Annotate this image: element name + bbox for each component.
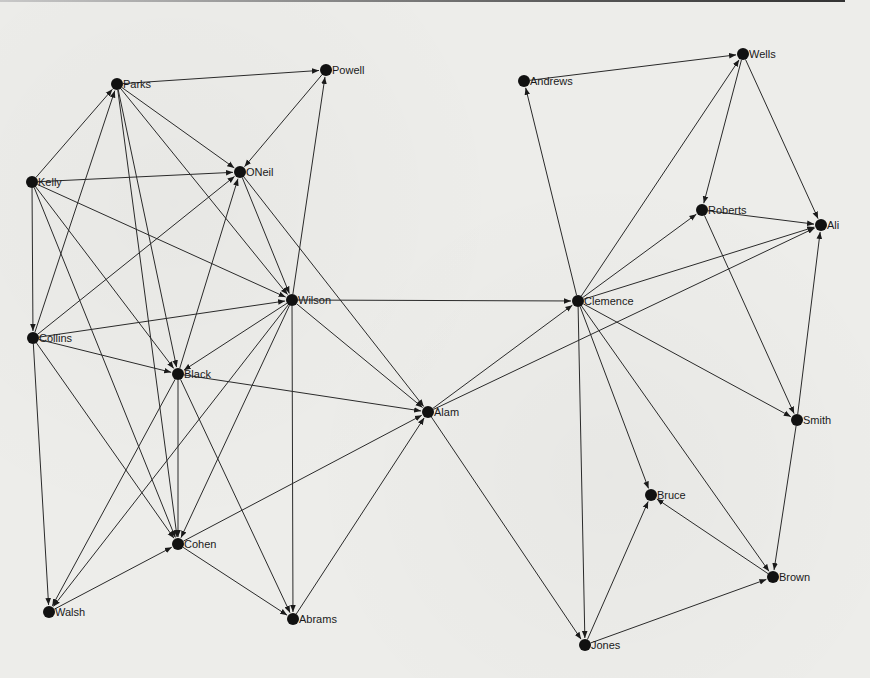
node-bruce: Bruce (645, 489, 686, 501)
edge-parks-to-powell (123, 70, 319, 83)
node-label: Collins (39, 332, 73, 344)
node-collins: Collins (27, 332, 73, 344)
node-label: Alam (434, 406, 459, 418)
node-andrews: Andrews (518, 75, 573, 87)
edge-walsh-to-cohen (54, 547, 171, 609)
node-label: Ali (827, 219, 839, 231)
nodes-layer: ParksPowellONeilKellyWilsonCollinsBlackA… (26, 48, 839, 651)
node-dot-icon (815, 219, 827, 231)
edge-parks-to-cohen (118, 90, 177, 537)
edge-clemence-to-roberts (583, 214, 697, 297)
node-jones: Jones (579, 639, 621, 651)
node-dot-icon (43, 606, 55, 618)
node-brown: Brown (767, 571, 810, 583)
edge-black-to-oneil (180, 179, 238, 369)
node-label: Powell (332, 64, 364, 76)
edge-clemence-to-jones (578, 307, 585, 638)
node-roberts: Roberts (696, 204, 747, 216)
edge-collins-to-walsh (33, 344, 48, 605)
edge-parks-to-oneil (122, 87, 234, 167)
node-label: Cohen (184, 538, 216, 550)
node-label: Andrews (530, 75, 573, 87)
node-dot-icon (286, 294, 298, 306)
edge-parks-to-black (118, 90, 176, 367)
node-walsh: Walsh (43, 606, 85, 618)
node-black: Black (172, 368, 211, 380)
edge-wilson-to-powell (293, 77, 325, 294)
edge-kelly-to-collins (32, 188, 33, 331)
node-dot-icon (287, 613, 299, 625)
edge-cohen-to-alam (183, 415, 422, 541)
edge-wilson-to-abrams (292, 306, 293, 612)
node-dot-icon (320, 64, 332, 76)
edge-smith-to-brown (774, 426, 796, 570)
edge-oneil-to-alam (244, 177, 424, 407)
network-diagram-canvas: ParksPowellONeilKellyWilsonCollinsBlackA… (0, 0, 870, 678)
edge-cohen-to-abrams (183, 547, 287, 615)
node-label: Brown (779, 571, 810, 583)
edge-black-to-abrams (181, 379, 290, 612)
edge-kelly-to-wilson (37, 184, 285, 297)
edge-clemence-to-andrews (526, 88, 577, 295)
edge-jones-to-bruce (587, 501, 648, 639)
node-label: Walsh (55, 606, 85, 618)
edge-clemence-to-smith (583, 304, 791, 417)
node-label: Jones (591, 639, 621, 651)
node-dot-icon (579, 639, 591, 651)
edge-clemence-to-wells (581, 60, 739, 296)
node-label: Bruce (657, 489, 686, 501)
edge-powell-to-oneil (245, 75, 323, 167)
node-alam: Alam (422, 406, 459, 418)
edge-oneil-to-wilson (242, 178, 289, 294)
node-dot-icon (791, 414, 803, 426)
node-dot-icon (234, 166, 246, 178)
node-wilson: Wilson (286, 294, 331, 306)
node-label: Black (184, 368, 211, 380)
edge-roberts-to-smith (704, 215, 794, 413)
node-abrams: Abrams (287, 613, 337, 625)
node-powell: Powell (320, 64, 364, 76)
node-parks: Parks (111, 78, 152, 90)
node-dot-icon (111, 78, 123, 90)
node-wells: Wells (737, 48, 776, 60)
node-dot-icon (572, 295, 584, 307)
edge-wilson-to-clemence (298, 300, 571, 301)
node-label: Wilson (298, 294, 331, 306)
node-label: Kelly (38, 176, 62, 188)
network-graph: ParksPowellONeilKellyWilsonCollinsBlackA… (0, 0, 870, 678)
node-dot-icon (737, 48, 749, 60)
edge-wells-to-roberts (704, 60, 742, 203)
node-dot-icon (27, 332, 39, 344)
node-label: Abrams (299, 613, 337, 625)
node-label: Smith (803, 414, 831, 426)
edge-alam-to-clemence (433, 305, 573, 408)
edge-clemence-to-ali (584, 227, 815, 299)
node-dot-icon (172, 538, 184, 550)
node-ali: Ali (815, 219, 839, 231)
node-label: Parks (123, 78, 152, 90)
edges-layer (32, 55, 820, 643)
node-dot-icon (26, 176, 38, 188)
node-dot-icon (422, 406, 434, 418)
edge-alam-to-ali (433, 228, 814, 409)
node-clemence: Clemence (572, 295, 634, 307)
node-dot-icon (172, 368, 184, 380)
edge-collins-to-wilson (39, 301, 285, 337)
edge-alam-to-jones (431, 417, 581, 639)
node-smith: Smith (791, 414, 831, 426)
node-dot-icon (696, 204, 708, 216)
node-oneil: ONeil (234, 166, 274, 178)
node-dot-icon (645, 489, 657, 501)
node-dot-icon (518, 75, 530, 87)
edge-clemence-to-brown (581, 306, 768, 571)
edge-smith-to-ali (798, 232, 820, 414)
node-kelly: Kelly (26, 176, 62, 188)
edge-jones-to-brown (591, 579, 767, 643)
node-label: Roberts (708, 204, 747, 216)
node-cohen: Cohen (172, 538, 216, 550)
edge-parks-to-wilson (121, 89, 288, 295)
edge-wilson-to-walsh (53, 305, 288, 607)
node-label: Wells (749, 48, 776, 60)
node-dot-icon (767, 571, 779, 583)
edge-collins-to-oneil (38, 176, 235, 334)
